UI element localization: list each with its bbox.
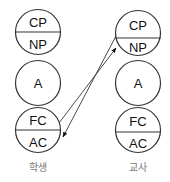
student-column: CP NP A FC AC 학생 — [16, 10, 61, 174]
teacher-parent-state: CP NP — [116, 11, 161, 56]
student-child-state: FC AC — [16, 108, 61, 153]
student-a-label: A — [34, 76, 43, 91]
teacher-caption: 교사 — [129, 162, 147, 173]
teacher-fc-label: FC — [129, 114, 146, 129]
teacher-ac-label: AC — [129, 136, 147, 151]
student-np-label: NP — [29, 37, 47, 52]
teacher-np-label: NP — [129, 40, 147, 55]
teacher-cp-label: CP — [129, 18, 147, 33]
student-fc-label: FC — [29, 113, 46, 128]
student-parent-state: CP NP — [16, 10, 61, 55]
student-caption: 학생 — [29, 162, 47, 173]
transaction-arrow-fc-to-np — [59, 48, 116, 123]
teacher-adult-state: A — [116, 61, 161, 106]
teacher-child-state: FC AC — [116, 108, 161, 153]
student-adult-state: A — [16, 61, 61, 106]
ego-state-diagram: CP NP A FC AC 학생 CP NP A FC — [0, 0, 170, 182]
teacher-column: CP NP A FC AC 교사 — [116, 11, 161, 174]
student-ac-label: AC — [29, 135, 47, 150]
student-cp-label: CP — [29, 15, 47, 30]
transaction-arrow-cp-to-ac — [63, 36, 116, 137]
teacher-a-label: A — [134, 76, 143, 91]
